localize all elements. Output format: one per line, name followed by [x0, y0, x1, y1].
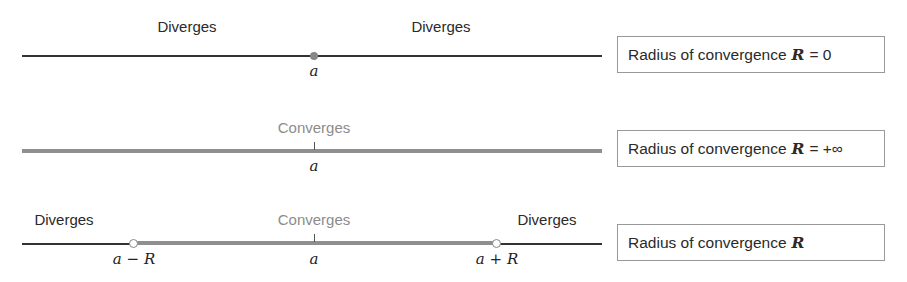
diverges-right-label: Diverges: [411, 18, 470, 35]
center-point-dot: [310, 52, 318, 60]
center-tick: [314, 234, 315, 242]
converges-label: Converges: [278, 119, 351, 136]
point-a-plus-r-label: a + R: [476, 250, 518, 268]
radius-text: Radius of convergence: [628, 46, 787, 64]
radius-text: Radius of convergence: [628, 234, 787, 252]
point-a-label: a: [310, 157, 319, 175]
radius-symbol: R: [792, 139, 805, 158]
open-endpoint-left: [129, 239, 138, 248]
point-a-minus-r-label: a − R: [113, 250, 155, 268]
diverges-right-label: Diverges: [517, 211, 576, 228]
radius-text: Radius of convergence: [628, 140, 787, 158]
radius-box-zero: Radius of convergence R = 0: [617, 36, 885, 73]
converges-label: Converges: [278, 211, 351, 228]
diverges-left-label: Diverges: [157, 18, 216, 35]
radius-value: = +∞: [809, 140, 842, 158]
open-endpoint-right: [492, 239, 501, 248]
radius-box-infinite: Radius of convergence R = +∞: [617, 130, 885, 167]
point-a-label: a: [310, 250, 319, 268]
radius-box-finite: Radius of convergence R: [617, 224, 885, 261]
radius-value: = 0: [809, 46, 831, 64]
diverges-left-label: Diverges: [34, 211, 93, 228]
radius-symbol: R: [792, 233, 805, 252]
center-tick: [314, 142, 315, 150]
point-a-label: a: [310, 62, 319, 80]
radius-symbol: R: [792, 45, 805, 64]
convergence-line: [22, 149, 602, 153]
